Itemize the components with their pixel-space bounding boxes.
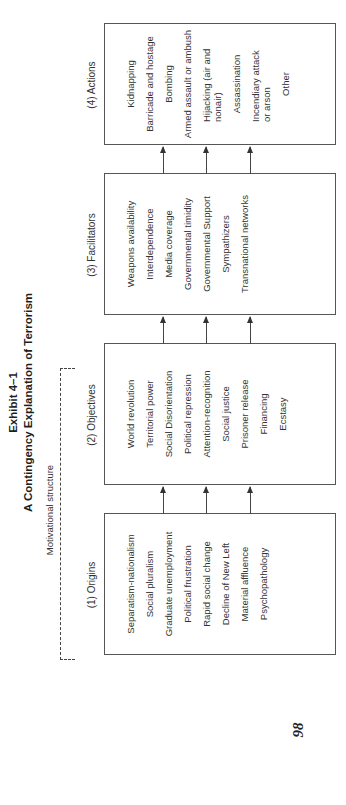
arrow-right-icon — [250, 147, 251, 174]
list-item: Attention-recognition — [197, 344, 216, 484]
exhibit-title: A Contingency Explanation of Terrorism — [21, 0, 36, 805]
exhibit-title-block: Exhibit 4–1 A Contingency Explanation of… — [6, 0, 36, 805]
list-item: Assassination — [227, 24, 246, 144]
facilitators-heading: (3) Facilitators — [86, 175, 97, 315]
arrow-right-icon — [250, 317, 251, 344]
list-item: Bombing — [159, 24, 178, 144]
arrow-right-icon — [206, 317, 207, 344]
list-item: Material affluence — [235, 514, 254, 654]
list-item: Transnational networks — [235, 174, 254, 314]
list-item: Political frustration — [178, 514, 197, 654]
list-item: Interdependence — [140, 174, 159, 314]
exhibit-number: Exhibit 4–1 — [6, 0, 21, 805]
page-number: 98 — [290, 655, 307, 805]
origins-heading: (1) Origins — [86, 515, 97, 655]
list-item: Social pluralism — [140, 514, 159, 654]
list-item: Weapons availability — [121, 174, 140, 314]
list-item: Financing — [254, 344, 273, 484]
list-item: Governmental Support — [197, 174, 216, 314]
arrow-right-icon — [250, 487, 251, 514]
actions-list: Kidnapping Barricade and hostage Bombing… — [121, 24, 295, 144]
actions-box: Kidnapping Barricade and hostage Bombing… — [104, 23, 336, 145]
list-item: Hijacking (air and nonair) — [201, 42, 223, 144]
origins-box: Separatism-nationalism Social pluralism … — [104, 513, 336, 655]
motivational-structure-label: Motivational structure — [44, 360, 55, 660]
list-item: Decline of New Left — [216, 514, 235, 654]
list-item: Psychopathology — [254, 514, 273, 654]
objectives-box: World revolution Territorial power Socia… — [104, 343, 336, 485]
origins-list: Separatism-nationalism Social pluralism … — [121, 514, 273, 654]
arrow-right-icon — [206, 487, 207, 514]
arrow-right-icon — [163, 487, 164, 514]
list-item: Ecstasy — [273, 344, 292, 484]
objectives-heading: (2) Objectives — [86, 345, 97, 485]
list-item: Other — [276, 24, 295, 144]
rotated-page: Exhibit 4–1 A Contingency Explanation of… — [0, 0, 346, 805]
list-item: Political repression — [178, 344, 197, 484]
actions-heading: (4) Actions — [86, 25, 97, 145]
motivational-structure-bracket: Motivational structure — [44, 360, 66, 660]
list-item: Governmental timidity — [178, 174, 197, 314]
list-item: Prisoner release — [235, 344, 254, 484]
facilitators-list: Weapons availability Interdependence Med… — [121, 174, 254, 314]
dashed-bracket-line — [60, 368, 75, 660]
arrow-right-icon — [206, 147, 207, 174]
list-item: Social justice — [216, 344, 235, 484]
arrow-right-icon — [163, 147, 164, 174]
arrow-right-icon — [163, 317, 164, 344]
list-item: Sympathizers — [216, 174, 235, 314]
list-item: Rapid social change — [197, 514, 216, 654]
list-item: Social Disorientation — [159, 344, 178, 484]
objectives-list: World revolution Territorial power Socia… — [121, 344, 292, 484]
facilitators-box: Weapons availability Interdependence Med… — [104, 173, 336, 315]
list-item: Separatism-nationalism — [121, 514, 140, 654]
list-item: World revolution — [121, 344, 140, 484]
list-item: Territorial power — [140, 344, 159, 484]
list-item: Armed assault or ambush — [178, 24, 197, 144]
list-item: Barricade and hostage — [140, 24, 159, 144]
list-item: Incendiary attack or arson — [250, 42, 272, 144]
list-item: Graduate unemployment — [159, 514, 178, 654]
list-item: Media coverage — [159, 174, 178, 314]
list-item: Kidnapping — [121, 24, 140, 144]
